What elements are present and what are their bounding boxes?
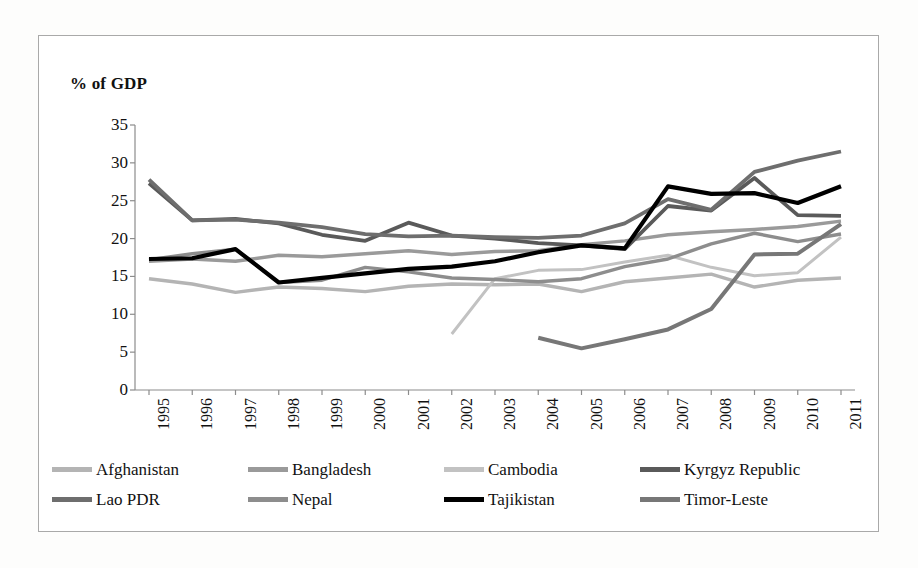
- x-axis-tick-label: 2000: [372, 398, 388, 430]
- legend-swatch-icon: [248, 497, 288, 502]
- legend-swatch-icon: [52, 497, 92, 502]
- legend-label: Tajikistan: [488, 491, 555, 508]
- x-axis-tick-label: 1999: [329, 398, 345, 430]
- legend-label: Bangladesh: [292, 461, 371, 478]
- legend-label: Kyrgyz Republic: [684, 461, 800, 478]
- legend-swatch-icon: [640, 497, 680, 502]
- x-axis-tick-label: 2005: [589, 398, 605, 430]
- legend-row: Lao PDRNepalTajikistanTimor-Leste: [52, 486, 870, 512]
- legend-row: AfghanistanBangladeshCambodiaKyrgyz Repu…: [52, 456, 870, 482]
- x-axis-tick-labels: 1995199619971998199920002001200220032004…: [135, 392, 855, 452]
- x-axis-tick-label: 1995: [156, 398, 172, 430]
- y-axis-tick-labels: 35302520151050: [92, 125, 128, 390]
- series-line: [149, 186, 841, 282]
- legend-label: Nepal: [292, 491, 333, 508]
- y-axis-tick-label: 25: [94, 192, 128, 209]
- legend-swatch-icon: [444, 467, 484, 472]
- y-axis-tick-label: 15: [94, 267, 128, 284]
- x-axis-tick-label: 2006: [632, 398, 648, 430]
- legend-item[interactable]: Tajikistan: [444, 486, 555, 512]
- x-axis-tick-label: 1996: [199, 398, 215, 430]
- legend-label: Cambodia: [488, 461, 558, 478]
- axis-title: % of GDP: [70, 74, 147, 94]
- x-axis-tick-label: 2001: [416, 398, 432, 430]
- x-axis-tick-label: 1997: [243, 398, 259, 430]
- legend-item[interactable]: Afghanistan: [52, 456, 179, 482]
- y-axis-tick-label: 35: [94, 116, 128, 133]
- legend-item[interactable]: Kyrgyz Republic: [640, 456, 800, 482]
- y-axis-tick-label: 5: [94, 343, 128, 360]
- legend-label: Afghanistan: [96, 461, 179, 478]
- y-axis-tick-label: 10: [94, 305, 128, 322]
- y-axis-tick-label: 0: [94, 381, 128, 398]
- x-axis-tick-label: 2009: [762, 398, 778, 430]
- chart-legend: AfghanistanBangladeshCambodiaKyrgyz Repu…: [52, 456, 870, 518]
- legend-item[interactable]: Bangladesh: [248, 456, 371, 482]
- x-axis-tick-label: 1998: [286, 398, 302, 430]
- legend-item[interactable]: Timor-Leste: [640, 486, 768, 512]
- legend-swatch-icon: [52, 467, 92, 472]
- legend-swatch-icon: [248, 467, 288, 472]
- x-axis-tick-label: 2010: [805, 398, 821, 430]
- legend-label: Timor-Leste: [684, 491, 768, 508]
- x-axis-tick-label: 2007: [675, 398, 691, 430]
- legend-item[interactable]: Nepal: [248, 486, 333, 512]
- series-line: [149, 221, 841, 261]
- figure-root: % of GDP 35302520151050 1995199619971998…: [0, 0, 918, 568]
- legend-item[interactable]: Cambodia: [444, 456, 558, 482]
- legend-swatch-icon: [640, 467, 680, 472]
- x-axis-tick-label: 2011: [848, 398, 864, 429]
- y-axis-tick-label: 20: [94, 230, 128, 247]
- legend-swatch-icon: [444, 497, 484, 502]
- line-chart-svg: [135, 125, 855, 390]
- y-axis-tick-label: 30: [94, 154, 128, 171]
- plot-area: [135, 125, 855, 390]
- legend-label: Lao PDR: [96, 491, 160, 508]
- x-axis-tick-label: 2002: [459, 398, 475, 430]
- x-axis-tick-label: 2003: [502, 398, 518, 430]
- legend-item[interactable]: Lao PDR: [52, 486, 160, 512]
- x-axis-tick-label: 2008: [718, 398, 734, 430]
- x-axis-tick-label: 2004: [545, 398, 561, 430]
